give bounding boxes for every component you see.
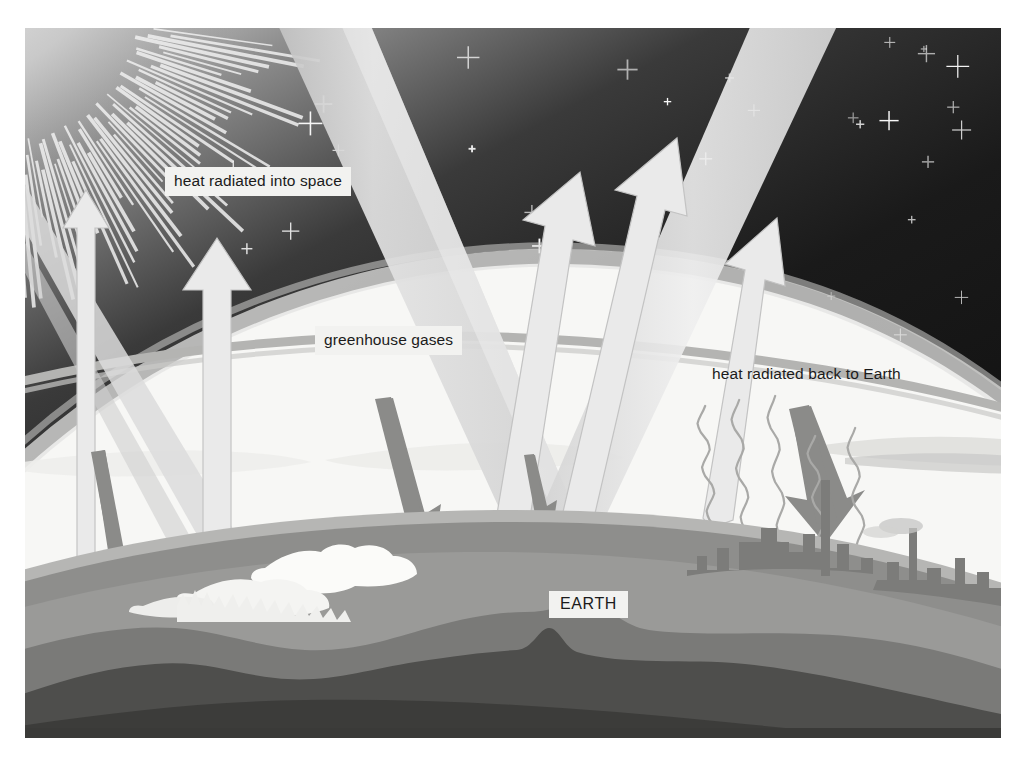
label-heat-radiated-into-space: heat radiated into space (165, 167, 351, 196)
label-greenhouse-gases: greenhouse gases (315, 326, 462, 355)
scene-svg (25, 28, 1001, 738)
label-heat-radiated-back-to-earth: heat radiated back to Earth (712, 366, 901, 382)
label-earth: EARTH (549, 591, 628, 618)
earth-terrain (25, 510, 1001, 738)
diagram-canvas: heat radiated into space greenhouse gase… (0, 0, 1031, 766)
greenhouse-effect-illustration (25, 28, 1001, 738)
